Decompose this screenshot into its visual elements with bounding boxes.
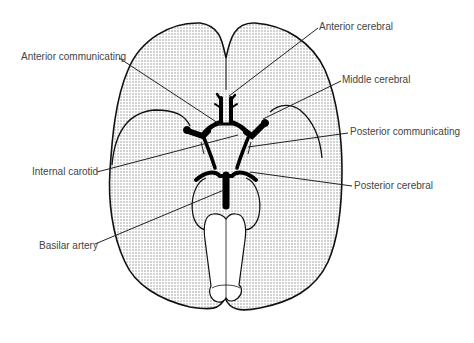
label-posterior-communicating: Posterior communicating	[350, 126, 460, 138]
label-posterior-cerebral: Posterior cerebral	[354, 180, 433, 192]
label-anterior-cerebral: Anterior cerebral	[319, 21, 393, 33]
label-internal-carotid: Internal carotid	[32, 166, 98, 178]
label-basilar-artery: Basilar artery	[39, 240, 98, 252]
label-anterior-communicating: Anterior communicating	[21, 51, 126, 63]
brainstem	[204, 214, 245, 302]
label-middle-cerebral: Middle cerebral	[342, 74, 410, 86]
